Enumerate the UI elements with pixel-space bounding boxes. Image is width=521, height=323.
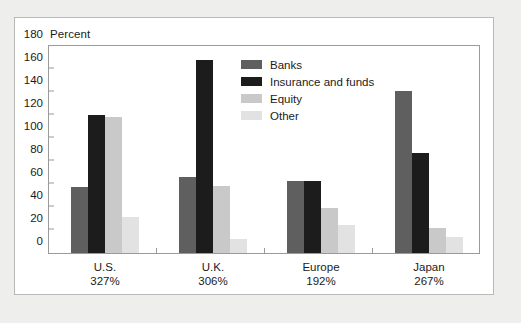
x-axis-label-name: Japan	[413, 261, 444, 273]
y-tick-label: 80	[30, 143, 43, 155]
x-axis-label: Europe192%	[302, 260, 339, 288]
legend-swatch	[241, 77, 262, 86]
bar	[179, 177, 196, 253]
y-tick-label: 0	[37, 235, 43, 247]
legend-item: Insurance and funds	[241, 73, 374, 90]
bar	[338, 225, 355, 253]
y-tick-label: 120	[24, 97, 43, 109]
bar	[304, 181, 321, 253]
y-tick-label: 40	[30, 189, 43, 201]
bar	[412, 153, 429, 253]
bar	[230, 239, 247, 253]
x-axis-label: U.K.306%	[198, 260, 227, 288]
x-axis-label: U.S.327%	[90, 260, 119, 288]
legend-label: Other	[270, 110, 299, 122]
bar	[88, 115, 105, 253]
plot-frame: 020406080100120140160180 U.S.327%U.K.306…	[48, 45, 480, 254]
plot-area: 020406080100120140160180 U.S.327%U.K.306…	[49, 46, 479, 253]
bar	[196, 60, 213, 253]
bar-group: U.S.327%	[49, 46, 157, 253]
legend-label: Equity	[270, 93, 302, 105]
legend-item: Banks	[241, 56, 374, 73]
bar	[71, 187, 88, 253]
chart-screenshot: Percent 020406080100120140160180 U.S.327…	[0, 0, 521, 323]
bar	[321, 208, 338, 253]
y-tick-label: 180	[24, 28, 43, 40]
x-axis-label-total: 192%	[302, 274, 339, 288]
chart-legend: BanksInsurance and fundsEquityOther	[241, 56, 374, 124]
x-axis-label: Japan267%	[413, 260, 444, 288]
y-axis-title: Percent	[50, 28, 90, 40]
bar	[213, 186, 230, 253]
bar-cluster	[49, 46, 157, 253]
x-axis-label-name: U.K.	[202, 261, 224, 273]
legend-swatch	[241, 111, 262, 120]
x-axis-label-total: 327%	[90, 274, 119, 288]
y-tick-label: 60	[30, 166, 43, 178]
bar	[395, 91, 412, 253]
legend-item: Equity	[241, 90, 374, 107]
legend-label: Banks	[270, 59, 302, 71]
bar	[429, 228, 446, 253]
bar-group: Japan267%	[373, 46, 481, 253]
legend-swatch	[241, 94, 262, 103]
legend-swatch	[241, 60, 262, 69]
x-axis-label-total: 306%	[198, 274, 227, 288]
bar	[122, 217, 139, 253]
y-tick-label: 140	[24, 74, 43, 86]
bar	[105, 117, 122, 253]
legend-item: Other	[241, 107, 374, 124]
x-axis-label-name: Europe	[302, 261, 339, 273]
x-axis-label-total: 267%	[413, 274, 444, 288]
bar	[446, 237, 463, 253]
figure-panel: Percent 020406080100120140160180 U.S.327…	[14, 17, 494, 295]
x-axis-label-name: U.S.	[94, 261, 116, 273]
legend-label: Insurance and funds	[270, 76, 374, 88]
y-tick-label: 100	[24, 120, 43, 132]
y-tick-label: 160	[24, 51, 43, 63]
bar	[287, 181, 304, 253]
bar-cluster	[373, 46, 481, 253]
y-tick-label: 20	[30, 212, 43, 224]
